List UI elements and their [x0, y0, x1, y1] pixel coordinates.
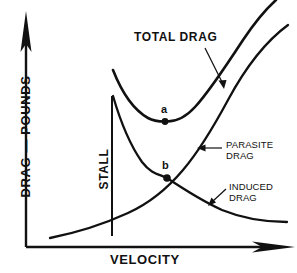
- total-drag-label: TOTAL DRAG: [134, 31, 217, 43]
- stall-label: STALL: [98, 139, 110, 199]
- drag-vs-velocity-chart: DRAG — POUNDS VELOCITY TOTAL DRAG STALL …: [0, 0, 297, 273]
- parasite-drag-label-line2: DRAG: [226, 151, 254, 161]
- point-b-marker: [163, 174, 171, 182]
- point-a-label: a: [161, 104, 167, 115]
- y-axis-label: DRAG — POUNDS: [19, 67, 32, 207]
- parasite-drag-label-line1: PARASITE: [226, 140, 273, 150]
- induced-drag-leader-line: [213, 189, 226, 201]
- total-drag-leader-arrow-icon: [219, 80, 227, 89]
- total-drag-leader-line: [205, 48, 222, 82]
- induced-drag-label-line1: INDUCED: [229, 182, 273, 192]
- induced-drag-curve: [113, 96, 287, 222]
- point-b-label: b: [162, 160, 169, 171]
- x-axis-label: VELOCITY: [110, 253, 180, 266]
- parasite-drag-curve: [50, 25, 288, 238]
- induced-drag-label-line2: DRAG: [229, 193, 257, 203]
- point-a-marker: [162, 118, 169, 125]
